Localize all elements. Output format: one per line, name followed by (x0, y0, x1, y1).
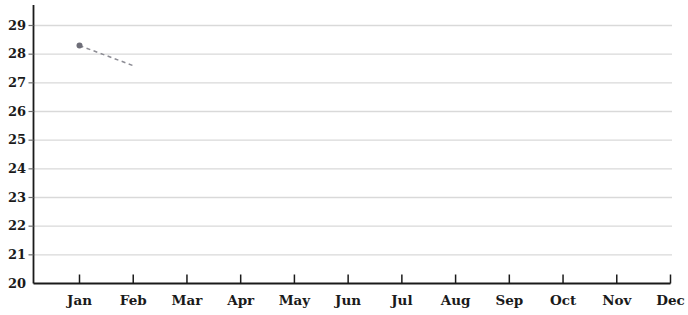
series-line (80, 46, 134, 66)
data-series-group (80, 46, 134, 66)
x-tick-group (80, 275, 671, 284)
chart-container: 20212223242526272829 JanFebMarAprMayJunJ… (0, 0, 688, 315)
y-tick-label: 21 (2, 248, 26, 261)
y-tick-label: 20 (2, 277, 26, 290)
gridline-group (34, 26, 673, 255)
y-tick-label: 27 (2, 76, 26, 89)
y-tick-label: 22 (2, 219, 26, 232)
x-tick-label-feb: Feb (103, 293, 163, 307)
x-tick-label-nov: Nov (587, 293, 647, 307)
y-tick-label: 24 (2, 162, 26, 175)
y-tick-label: 26 (2, 105, 26, 118)
chart-plot-area (0, 0, 688, 315)
x-tick-label-may: May (264, 293, 324, 307)
data-point-marker (77, 43, 83, 49)
data-marker-group (77, 43, 83, 49)
x-tick-label-jan: Jan (50, 293, 110, 307)
y-tick-label: 25 (2, 133, 26, 146)
x-tick-label-jul: Jul (372, 293, 432, 307)
x-tick-label-oct: Oct (533, 293, 593, 307)
x-tick-label-mar: Mar (157, 293, 217, 307)
x-tick-label-apr: Apr (211, 293, 271, 307)
x-tick-label-dec: Dec (641, 293, 688, 307)
y-tick-label: 23 (2, 191, 26, 204)
x-tick-label-aug: Aug (426, 293, 486, 307)
y-tick-label: 29 (2, 19, 26, 32)
y-tick-label: 28 (2, 47, 26, 60)
x-tick-label-jun: Jun (318, 293, 378, 307)
x-tick-label-sep: Sep (479, 293, 539, 307)
